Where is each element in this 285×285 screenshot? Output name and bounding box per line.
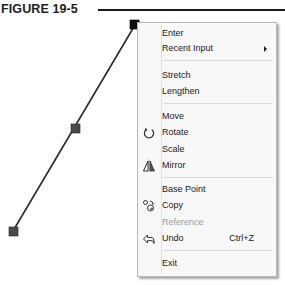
- menu-item-exit[interactable]: Exit: [138, 256, 276, 272]
- menu-separator: [163, 177, 273, 178]
- menu-item-base-point[interactable]: Base Point: [138, 182, 276, 198]
- mid-grip[interactable]: [71, 124, 80, 133]
- menu-item-label: Move: [162, 111, 184, 121]
- menu-item-label: Rotate: [162, 127, 189, 137]
- menu-item-copy[interactable]: Copy: [138, 198, 276, 214]
- menu-item-label: Enter: [162, 28, 184, 38]
- menu-item-lengthen[interactable]: Lengthen: [138, 84, 276, 100]
- rotate-icon: [142, 126, 156, 140]
- menu-item-label: Reference: [162, 217, 204, 227]
- menu-separator: [163, 250, 273, 251]
- menu-item-stretch[interactable]: Stretch: [138, 68, 276, 84]
- menu-item-mirror[interactable]: Mirror: [138, 158, 276, 174]
- undo-icon: [142, 232, 156, 246]
- menu-item-label: Scale: [162, 144, 185, 154]
- menu-item-move[interactable]: Move: [138, 109, 276, 125]
- menu-item-label: Copy: [162, 200, 183, 210]
- menu-separator: [163, 103, 273, 104]
- context-menu: Enter Recent Input Stretch Lengthen Move…: [137, 22, 277, 277]
- end-grip[interactable]: [9, 227, 18, 236]
- copy-icon: [142, 199, 156, 213]
- menu-item-label: Lengthen: [162, 86, 200, 96]
- menu-item-label: Undo: [162, 233, 184, 243]
- menu-item-label: Base Point: [162, 184, 206, 194]
- menu-item-undo[interactable]: Undo Ctrl+Z: [138, 231, 276, 247]
- menu-item-recent-input[interactable]: Recent Input: [138, 41, 276, 57]
- menu-item-label: Mirror: [162, 160, 186, 170]
- mirror-icon: [142, 159, 156, 173]
- menu-item-shortcut: Ctrl+Z: [229, 233, 254, 243]
- menu-item-label: Exit: [162, 258, 177, 268]
- menu-item-reference: Reference: [138, 215, 276, 231]
- menu-separator: [163, 60, 273, 61]
- menu-item-rotate[interactable]: Rotate: [138, 125, 276, 141]
- menu-item-label: Recent Input: [162, 43, 213, 53]
- menu-item-enter[interactable]: Enter: [138, 26, 276, 42]
- submenu-arrow-icon: [264, 46, 267, 52]
- menu-item-scale[interactable]: Scale: [138, 142, 276, 158]
- menu-item-label: Stretch: [162, 70, 191, 80]
